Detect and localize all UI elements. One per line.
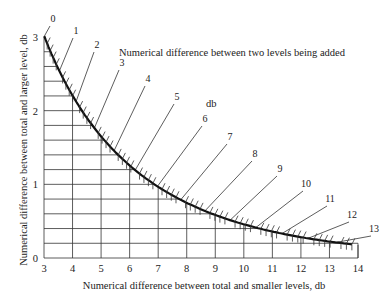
hatch-tick [118, 149, 121, 155]
hatch-tick [80, 101, 83, 107]
grid [44, 37, 358, 258]
curve-label: 7 [228, 131, 233, 142]
hatch-tick [50, 45, 53, 51]
y-tick-label: 2 [33, 106, 38, 117]
y-tick-label: 1 [33, 179, 38, 190]
hatch-tick [200, 203, 203, 209]
hatch-tick [298, 231, 301, 237]
curve-label: 2 [95, 39, 100, 50]
x-tick-label: 4 [70, 263, 76, 274]
leader-line [76, 52, 94, 102]
leader-line [256, 191, 303, 228]
x-axis-label: Numerical difference between total and s… [83, 280, 325, 291]
hatch-tick [319, 234, 322, 240]
annotation-unit: db [206, 98, 217, 109]
hatch-tick [102, 132, 105, 138]
curve-label: 8 [253, 148, 258, 159]
hatch-tick [148, 174, 151, 180]
hatch-tick [98, 127, 101, 133]
hatch-tick [73, 90, 76, 96]
leader-line [59, 38, 73, 71]
hatch-tick [131, 160, 134, 166]
hatch-tick [277, 226, 280, 232]
leader-line [181, 144, 227, 200]
hatch-tick [153, 177, 156, 183]
leader-line [135, 104, 174, 170]
curve-label: 13 [369, 223, 379, 234]
hatch-tick [144, 171, 147, 177]
leader-line [114, 86, 145, 150]
hatch-tick [225, 212, 228, 218]
hatch-tick [220, 211, 223, 217]
x-tick-label: 14 [353, 263, 364, 274]
hatch-tick [186, 196, 189, 202]
hatch-tick [122, 153, 125, 159]
x-tick-label: 7 [156, 263, 161, 274]
leader-line [205, 161, 252, 211]
hatch-tick [91, 117, 94, 123]
x-tick-label: 11 [267, 263, 277, 274]
x-tick-label: 5 [98, 263, 103, 274]
hatch-tick [110, 141, 113, 147]
hatch-tick [176, 191, 179, 197]
annotation-text: Numerical difference between two levels … [119, 47, 346, 58]
hatch-tick [66, 78, 69, 84]
leader-line [44, 26, 50, 36]
curve-label: 10 [301, 178, 311, 189]
level-addition-chart: 345678910111213140123 012345678910111213… [0, 0, 382, 298]
hatch-tick [240, 217, 243, 223]
leader-line [230, 176, 277, 220]
curve-label: 3 [120, 57, 125, 68]
x-tick-label: 3 [41, 263, 46, 274]
hatch-tick [127, 157, 130, 163]
hatch-tick [190, 199, 193, 205]
hatch-tick [215, 209, 218, 215]
curve-label: 0 [51, 13, 56, 24]
curve-label: 11 [325, 193, 335, 204]
x-tick-label: 12 [296, 263, 307, 274]
hatch-tick [140, 168, 143, 174]
y-axis-label: Numerical difference between total and l… [18, 34, 29, 266]
hatch-tick [69, 84, 72, 90]
x-tick-label: 10 [239, 263, 250, 274]
hatch-tick [235, 216, 238, 222]
hatch-tick [245, 219, 248, 225]
hatch-tick [167, 186, 170, 192]
curve-label: 4 [146, 73, 151, 84]
hatch-tick [303, 232, 306, 238]
hatch-tick [83, 107, 86, 113]
leader-line [309, 222, 349, 238]
leader-line [157, 126, 202, 187]
hatch-tick [314, 233, 317, 239]
curve-label: 5 [175, 91, 180, 102]
leader-line [282, 206, 327, 234]
hatch-tick [195, 201, 198, 207]
hatch-tick [47, 38, 50, 44]
hatch-tick [53, 52, 56, 58]
hatch-tick [106, 136, 109, 142]
y-tick-label: 0 [33, 253, 38, 264]
curve-label: 1 [74, 25, 79, 36]
x-tick-label: 8 [184, 263, 189, 274]
y-tick-label: 3 [33, 32, 38, 43]
hatch-tick [63, 71, 66, 77]
hatch-tick [210, 207, 213, 213]
curve-label: 6 [203, 113, 208, 124]
curve-hatching [44, 36, 355, 250]
x-tick-label: 13 [324, 263, 335, 274]
leader-line [94, 70, 119, 128]
hatch-tick [162, 183, 165, 189]
curve-label: 12 [347, 209, 357, 220]
hatch-tick [325, 235, 328, 241]
hatch-tick [56, 58, 59, 64]
hatch-tick [271, 225, 274, 231]
hatch-tick [87, 112, 90, 118]
hatch-tick [250, 220, 253, 226]
curve-label: 9 [278, 163, 283, 174]
hatch-tick [171, 189, 174, 195]
hatch-tick [292, 230, 295, 236]
hatch-tick [266, 224, 269, 230]
x-tick-label: 6 [127, 263, 132, 274]
x-tick-label: 9 [213, 263, 218, 274]
